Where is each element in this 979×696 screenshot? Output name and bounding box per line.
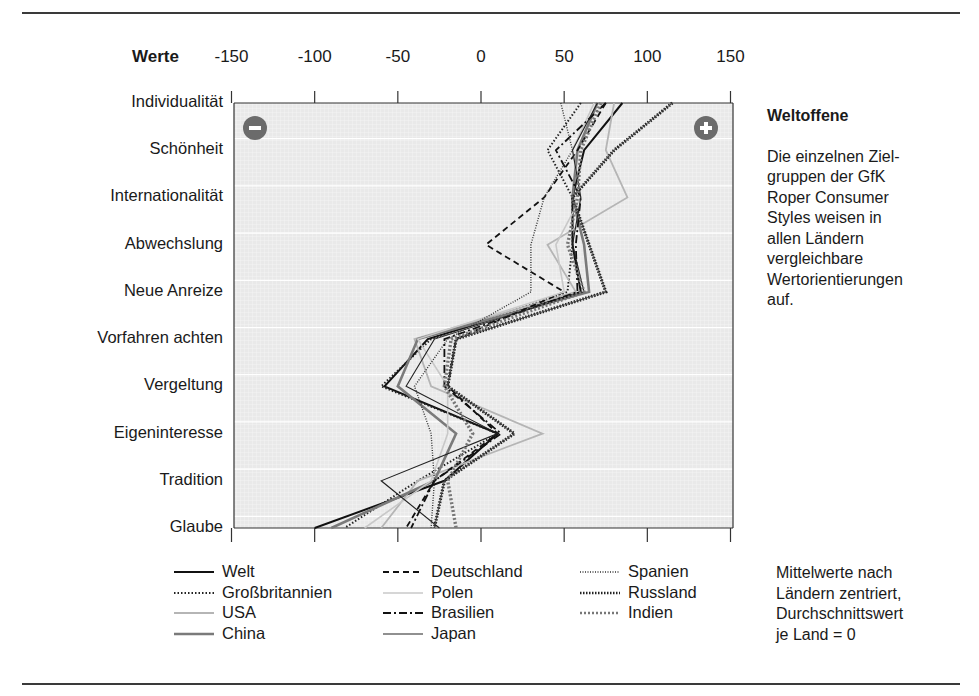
legend-swatch-icon: [172, 566, 216, 578]
sidebar-line: Wertorientierungen: [767, 270, 903, 291]
legend-swatch-icon: [578, 566, 622, 578]
legend-label: Polen: [431, 583, 473, 602]
footnote-line: je Land = 0: [776, 625, 903, 646]
legend-label: USA: [222, 603, 256, 622]
plot-background: [234, 103, 733, 528]
legend-label: Russland: [628, 583, 697, 602]
legend-swatch-icon: [578, 587, 622, 599]
legend-swatch-icon: [172, 607, 216, 619]
sidebar-line: Die einzelnen Ziel-: [767, 147, 903, 168]
footnote-line: Durchschnittswert: [776, 604, 903, 625]
legend-label: China: [222, 624, 265, 643]
sidebar-line: gruppen der GfK: [767, 167, 903, 188]
legend-swatch-icon: [381, 566, 425, 578]
sidebar-line: auf.: [767, 290, 903, 311]
sidebar-title: Weltoffene: [767, 106, 903, 127]
footnote-line: Ländern zentriert,: [776, 584, 903, 605]
plus-icon: [694, 116, 718, 140]
legend-swatch-icon: [172, 587, 216, 599]
minus-icon: [243, 116, 267, 140]
sidebar-description: Weltoffene Die einzelnen Ziel-gruppen de…: [767, 106, 903, 311]
footnote-line: Mittelwerte nach: [776, 563, 903, 584]
legend-label: Indien: [628, 603, 673, 622]
legend-label: Brasilien: [431, 603, 494, 622]
legend-label: Spanien: [628, 562, 689, 581]
legend-swatch-icon: [381, 587, 425, 599]
sidebar-line: vergleichbare: [767, 249, 903, 270]
legend-swatch-icon: [172, 628, 216, 640]
footnote: Mittelwerte nachLändern zentriert,Durchs…: [776, 563, 903, 645]
legend-swatch-icon: [578, 607, 622, 619]
legend-swatch-icon: [381, 628, 425, 640]
sidebar-line: allen Ländern: [767, 229, 903, 250]
legend-label: Großbritannien: [222, 583, 332, 602]
legend-label: Japan: [431, 624, 476, 643]
legend-label: Welt: [222, 562, 255, 581]
sidebar-text: Die einzelnen Ziel-gruppen der GfKRoper …: [767, 147, 903, 311]
sidebar-line: Styles weisen in: [767, 208, 903, 229]
sidebar-line: Roper Consumer: [767, 188, 903, 209]
legend-swatch-icon: [381, 607, 425, 619]
legend-label: Deutschland: [431, 562, 523, 581]
